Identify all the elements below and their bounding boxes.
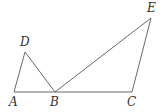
point-label-A: A (8, 95, 18, 109)
segment-DB (25, 52, 55, 92)
point-label-D: D (19, 35, 30, 49)
point-label-B: B (49, 95, 59, 109)
segment-AD (14, 52, 25, 92)
point-label-E: E (146, 1, 156, 15)
point-label-C: C (127, 95, 136, 109)
segment-BE (55, 18, 151, 92)
segment-EC (132, 18, 151, 92)
geometry-diagram: A B C D E (0, 0, 163, 112)
